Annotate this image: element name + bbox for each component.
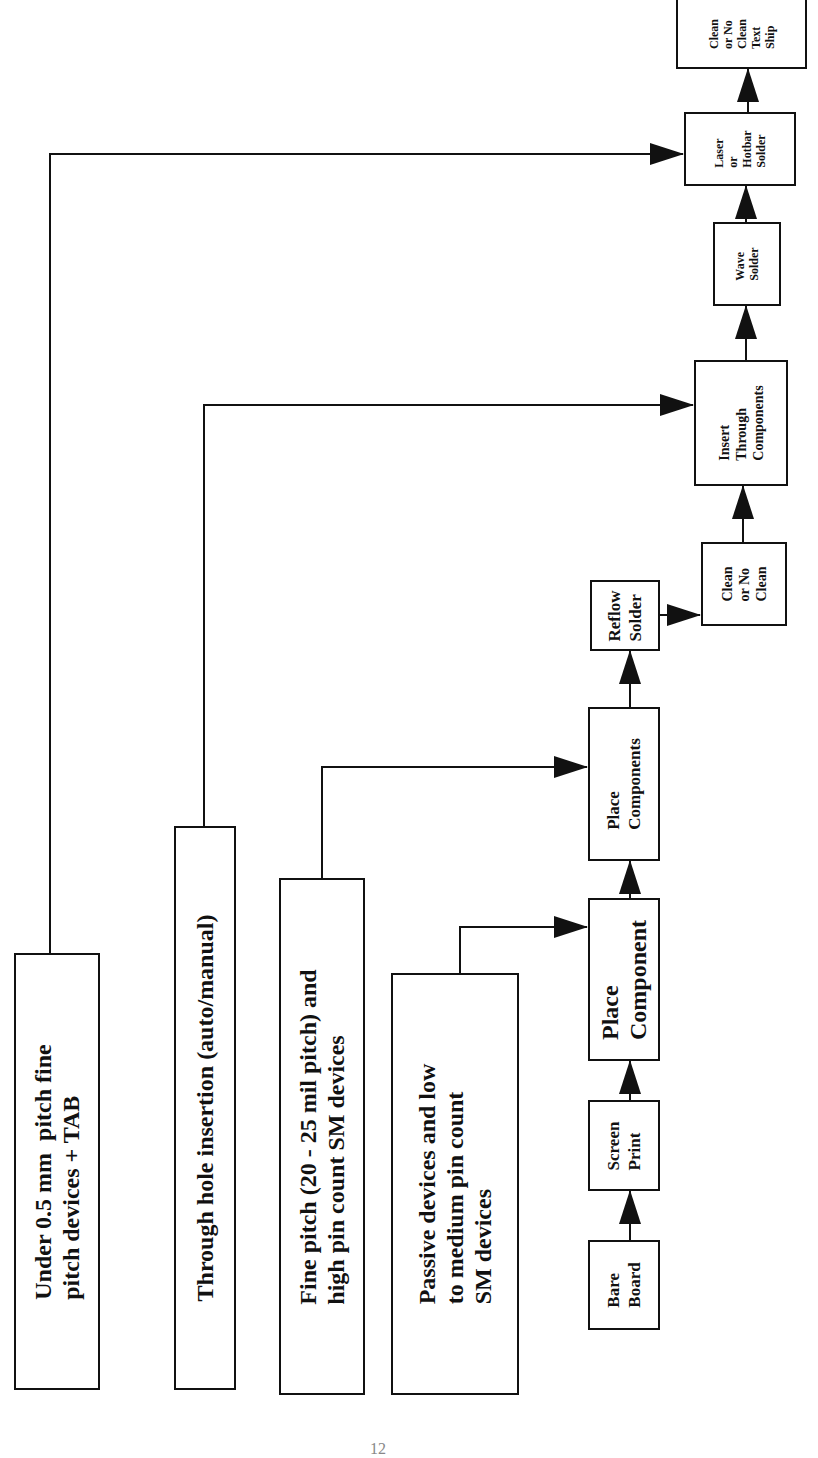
- input-passive-devices: Passive devices and low to medium pin co…: [391, 973, 519, 1395]
- input-under-05mm: Under 0.5 mm pitch fine pitch devices + …: [14, 953, 100, 1390]
- step-laser-hotbar-solder: Laser or Hotbar Solder: [684, 112, 796, 186]
- step-screen-print: Screen Print: [588, 1100, 660, 1191]
- step-place-component: Place Component: [588, 898, 660, 1061]
- step-bare-board: Bare Board: [588, 1240, 660, 1330]
- connector-finepitch-to-placecomponents: [322, 767, 587, 878]
- input-fine-pitch: Fine pitch (20 - 25 mil pitch) and high …: [279, 878, 365, 1395]
- input-through-hole: Through hole insertion (auto/manual): [174, 826, 236, 1390]
- step-final-clean-test-ship: Clean or No Clean Text Ship: [676, 0, 807, 69]
- step-reflow-solder: Reflow Solder: [590, 580, 660, 651]
- step-insert-through-components: Insert Through Components: [694, 360, 788, 486]
- connector-passive-to-placecomponent: [460, 927, 587, 973]
- page-number: 12: [370, 1440, 386, 1458]
- step-wave-solder: Wave Solder: [713, 222, 781, 306]
- step-clean-or-no-clean: Clean or No Clean: [701, 542, 787, 626]
- step-place-components: Place Components: [588, 707, 660, 861]
